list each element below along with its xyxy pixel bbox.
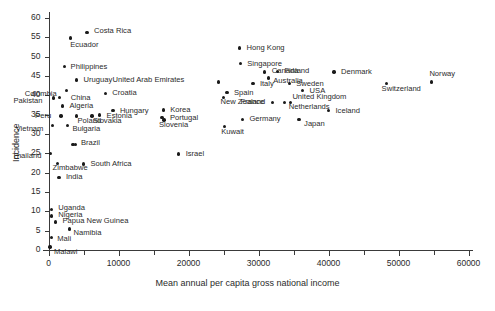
x-tick <box>259 251 260 256</box>
y-tick <box>45 211 49 212</box>
data-point-label: Netherlands <box>289 103 330 111</box>
data-point[interactable] <box>225 91 228 94</box>
y-tick-label: 10 <box>0 206 41 215</box>
y-tick-label: 5 <box>0 226 41 235</box>
data-point[interactable] <box>48 245 51 248</box>
y-tick <box>45 37 49 38</box>
data-point-label: Denmark <box>341 68 372 76</box>
data-point-label: Costa Rica <box>94 27 131 35</box>
y-tick <box>45 231 49 232</box>
data-point[interactable] <box>75 78 78 81</box>
data-point-label: Mali <box>57 235 71 243</box>
x-tick <box>119 251 120 256</box>
data-point[interactable] <box>59 114 62 117</box>
data-point[interactable] <box>217 80 220 83</box>
data-point-label: Japan <box>304 120 325 128</box>
data-point[interactable] <box>50 214 53 217</box>
data-point[interactable] <box>98 113 101 116</box>
data-point-label: United Kingdom <box>292 93 346 101</box>
data-point[interactable] <box>58 96 61 99</box>
data-point[interactable] <box>68 227 71 230</box>
data-point-label: Croatia <box>112 89 136 97</box>
data-point[interactable] <box>61 104 64 107</box>
data-point-label: Philippines <box>71 63 108 71</box>
y-tick-label: 60 <box>0 13 41 22</box>
x-tick-label: 60000 <box>439 259 495 268</box>
plot-area: 0510152025303540455055600100002000030000… <box>0 0 495 311</box>
y-tick <box>45 153 49 154</box>
y-tick-label: 15 <box>0 187 41 196</box>
data-point[interactable] <box>66 124 69 127</box>
data-point-label: Algeria <box>70 102 94 110</box>
data-point[interactable] <box>63 65 66 68</box>
x-tick <box>189 251 190 256</box>
data-point-label: Switzerland <box>382 85 421 93</box>
scatter-chart: 0510152025303540455055600100002000030000… <box>0 0 495 311</box>
data-point[interactable] <box>276 70 279 73</box>
data-point-label: South Africa <box>91 160 132 168</box>
data-point[interactable] <box>104 92 107 95</box>
data-point[interactable] <box>82 162 85 165</box>
data-point-label: France <box>241 98 265 106</box>
data-point[interactable] <box>177 152 180 155</box>
x-axis-line <box>43 250 473 251</box>
x-tick-label: 10000 <box>89 259 149 268</box>
data-point[interactable] <box>52 96 55 99</box>
data-point[interactable] <box>50 208 53 211</box>
y-tick-label: 55 <box>0 32 41 41</box>
x-tick-label: 40000 <box>299 259 359 268</box>
x-tick-label: 20000 <box>159 259 219 268</box>
data-point[interactable] <box>49 152 52 155</box>
data-point[interactable] <box>65 89 68 92</box>
data-point-label: Peru <box>35 112 51 120</box>
x-tick-label: 0 <box>19 259 79 268</box>
data-point[interactable] <box>74 143 77 146</box>
y-axis-label: Incidence <box>11 123 21 162</box>
y-tick-label: 50 <box>0 52 41 61</box>
y-tick-label: 0 <box>0 245 41 254</box>
data-point[interactable] <box>283 101 286 104</box>
data-point-label: Spain <box>234 89 253 97</box>
x-axis-label: Mean annual per capita gross national in… <box>0 278 495 288</box>
x-tick <box>469 251 470 256</box>
data-point[interactable] <box>85 31 88 34</box>
data-point-label: Estonia <box>107 112 132 120</box>
data-point[interactable] <box>263 70 266 73</box>
data-point-label: Germany <box>249 115 280 123</box>
y-tick-label: 20 <box>0 168 41 177</box>
data-point[interactable] <box>239 62 242 65</box>
data-point[interactable] <box>57 176 60 179</box>
y-tick <box>45 76 49 77</box>
data-point[interactable] <box>54 220 57 223</box>
data-point[interactable] <box>430 80 433 83</box>
data-point[interactable] <box>241 118 244 121</box>
data-point[interactable] <box>251 82 254 85</box>
data-point-label: Brazil <box>81 139 100 147</box>
data-point-label: Bulgaria <box>72 125 100 133</box>
y-tick-label: 45 <box>0 71 41 80</box>
data-point[interactable] <box>332 70 335 73</box>
data-point-label: Papua New Guinea <box>63 217 129 225</box>
data-point-label: Italy <box>260 80 274 88</box>
data-point[interactable] <box>327 109 330 112</box>
y-tick <box>45 18 49 19</box>
data-point-label: India <box>66 173 82 181</box>
data-point-label: Namibia <box>74 229 102 237</box>
data-point[interactable] <box>50 236 53 239</box>
data-point[interactable] <box>238 46 241 49</box>
y-tick <box>45 192 49 193</box>
data-point-label: United Arab Emirates <box>113 76 185 84</box>
data-point[interactable] <box>271 101 274 104</box>
data-point-label: Norway <box>429 70 455 78</box>
data-point[interactable] <box>51 124 54 127</box>
data-point-label: Iceland <box>336 107 361 115</box>
data-point[interactable] <box>297 118 300 121</box>
x-minor-tick <box>364 251 365 255</box>
data-point[interactable] <box>162 108 165 111</box>
x-minor-tick <box>84 251 85 255</box>
x-tick <box>329 251 330 256</box>
y-tick <box>45 173 49 174</box>
x-tick <box>49 251 50 256</box>
y-tick <box>45 134 49 135</box>
x-minor-tick <box>434 251 435 255</box>
